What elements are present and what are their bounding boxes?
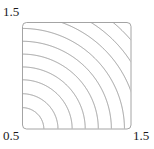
contour-line-group [22,0,154,129]
plot-frame-border [23,23,132,130]
contour-line [85,0,154,67]
contour-line [22,94,58,129]
origin-label: 0.5 [3,129,19,142]
y-axis-max-label: 1.5 [3,5,19,18]
contour-line [22,80,72,129]
contour-line [22,54,98,129]
x-axis-max-label: 1.5 [133,129,149,142]
contour-plot-figure: 1.5 0.5 1.5 [0,0,154,149]
contour-line [22,16,138,129]
contour-line [22,108,44,129]
contour-line [22,0,154,129]
contour-plot-canvas [0,0,154,149]
